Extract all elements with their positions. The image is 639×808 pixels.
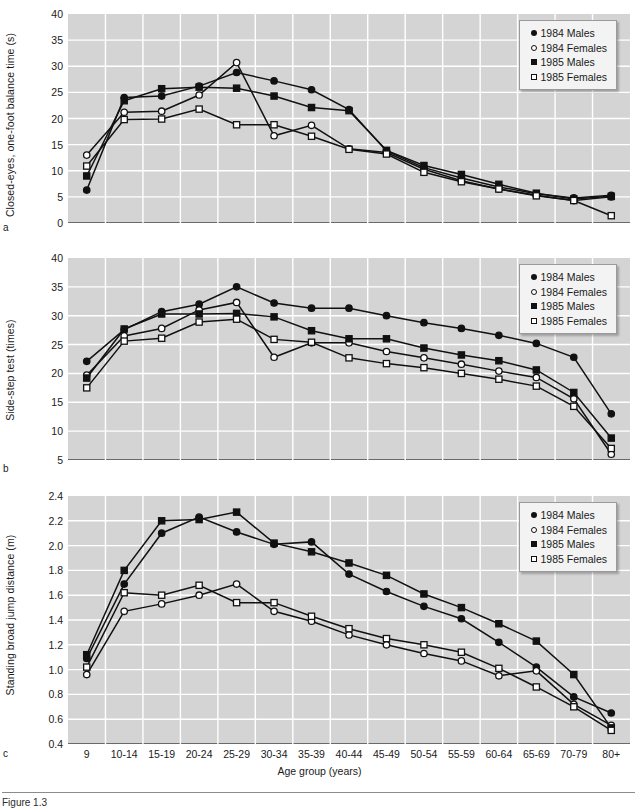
y-tick-label: 1.4 [48,614,63,626]
filled-circle-icon [527,512,540,518]
x-tick-label: 50-54 [410,748,437,760]
open-square-icon [527,74,540,80]
y-tick-label: 20 [51,367,63,379]
legend-label: 1984 Males [540,27,594,39]
y-tick-label: 2.4 [48,490,63,502]
c-legend: 1984 Males1984 Females1985 Males1985 Fem… [519,502,617,572]
legend-label: 1985 Males [540,538,594,550]
legend-item: 1985 Females [527,314,607,329]
x-tick-label: 30-34 [261,748,288,760]
legend-label: 1985 Females [540,553,607,565]
figure-caption: Figure 1.3 [2,797,47,808]
legend-item: 1984 Females [527,285,607,300]
y-tick-label: 1.6 [48,589,63,601]
y-tick-label: 1.8 [48,564,63,576]
b-legend: 1984 Males1984 Females1985 Males1985 Fem… [519,264,617,334]
open-circle-icon [527,527,540,533]
legend-label: 1984 Females [540,42,607,54]
legend-item: 1984 Males [527,26,607,41]
legend-label: 1984 Females [540,286,607,298]
y-tick-label: 1.2 [48,639,63,651]
y-tick-label: 35 [51,281,63,293]
y-tick-label: 10 [51,165,63,177]
x-tick-label: 10-14 [111,748,138,760]
x-tick-label: 60-64 [485,748,512,760]
x-tick-label: 15-19 [148,748,175,760]
legend-item: 1985 Males [527,55,607,70]
legend-label: 1985 Females [540,71,607,83]
legend-label: 1984 Males [540,271,594,283]
y-tick-label: 20 [51,113,63,125]
legend-label: 1984 Females [540,524,607,536]
y-tick-label: 2.2 [48,515,63,527]
open-circle-icon [527,45,540,51]
x-axis-title: Age group (years) [0,765,639,777]
legend-item: 1984 Males [527,270,607,285]
panel-a: Closed-eyes, one-foot balance time (s) a… [0,0,639,250]
x-tick-label: 20-24 [186,748,213,760]
open-square-icon [527,318,540,324]
y-tick-label: 0.8 [48,688,63,700]
y-tick-label: 40 [51,8,63,20]
x-tick-label: 9 [84,748,90,760]
a-legend: 1984 Males1984 Females1985 Males1985 Fem… [519,20,617,90]
x-tick-label: 80+ [602,748,620,760]
y-tick-label: 0 [57,217,63,229]
y-tick-label: 35 [51,34,63,46]
legend-item: 1984 Males [527,508,607,523]
y-tick-label: 30 [51,310,63,322]
x-tick-label: 35-39 [298,748,325,760]
y-tick-label: 2.0 [48,540,63,552]
x-tick-label: 45-49 [373,748,400,760]
y-tick-label: 40 [51,252,63,264]
legend-label: 1985 Males [540,56,594,68]
legend-item: 1984 Females [527,523,607,538]
figure-three-panel-line-charts: Closed-eyes, one-foot balance time (s) a… [0,0,639,808]
filled-square-icon [527,303,540,309]
open-circle-icon [527,289,540,295]
legend-label: 1984 Males [540,509,594,521]
y-tick-label: 5 [57,191,63,203]
legend-label: 1985 Males [540,300,594,312]
x-tick-label: 25-29 [223,748,250,760]
filled-circle-icon [527,30,540,36]
x-axis: Age group (years) 910-1415-1920-2425-293… [0,748,639,782]
y-tick-label: 15 [51,396,63,408]
y-tick-label: 30 [51,60,63,72]
x-tick-label: 65-69 [523,748,550,760]
filled-circle-icon [527,274,540,280]
y-tick-label: 5 [57,454,63,466]
x-tick-label: 40-44 [336,748,363,760]
legend-item: 1985 Females [527,70,607,85]
legend-label: 1985 Females [540,315,607,327]
y-tick-label: 25 [51,339,63,351]
legend-item: 1985 Males [527,537,607,552]
caption-divider [2,792,635,793]
x-tick-label: 70-79 [560,748,587,760]
legend-item: 1985 Males [527,299,607,314]
y-tick-label: 0.6 [48,713,63,725]
panel-c: Standing broad jump distance (m) c 0.40.… [0,490,639,740]
legend-item: 1984 Females [527,41,607,56]
y-tick-label: 15 [51,139,63,151]
x-tick-label: 55-59 [448,748,475,760]
filled-square-icon [527,59,540,65]
y-tick-label: 1.0 [48,664,63,676]
panel-b: Side-step test (times) b 510152025303540… [0,250,639,490]
legend-item: 1985 Females [527,552,607,567]
filled-square-icon [527,541,540,547]
open-square-icon [527,556,540,562]
y-tick-label: 25 [51,86,63,98]
y-tick-label: 10 [51,425,63,437]
